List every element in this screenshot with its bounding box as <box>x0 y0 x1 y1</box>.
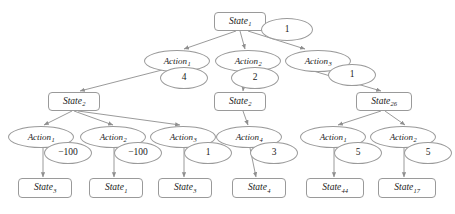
node-label: Action <box>320 133 344 142</box>
value-node-v_a2: 2 <box>231 67 279 89</box>
value-node-v_b6: 5 <box>404 142 452 164</box>
node-label: 2 <box>253 73 258 83</box>
node-label: −100 <box>58 148 78 158</box>
node-label: −100 <box>128 148 148 158</box>
node-subscript: 2 <box>413 136 416 143</box>
node-subscript: 4 <box>259 136 262 143</box>
state-node-t3: State3 <box>158 178 212 198</box>
node-label: State <box>248 183 267 193</box>
value-node-v_b1: −100 <box>44 142 92 164</box>
node-label: State <box>229 97 248 107</box>
state-node-t6: State17 <box>378 178 436 198</box>
state-node-t5: State44 <box>306 178 364 198</box>
state-node-s_m: State2 <box>214 92 266 111</box>
node-label: 5 <box>426 148 431 158</box>
node-label: State <box>394 183 413 193</box>
node-subscript: 2 <box>258 60 261 67</box>
node-label: State <box>63 97 82 107</box>
value-node-v_a3: 1 <box>328 64 376 86</box>
node-subscript: 4 <box>267 187 270 194</box>
node-label: 4 <box>182 73 187 83</box>
node-subscript: 2 <box>123 136 126 143</box>
node-label: Action <box>164 57 188 66</box>
node-subscript: 2 <box>82 100 85 107</box>
node-label: State <box>322 183 341 193</box>
node-subscript: 1 <box>343 136 346 143</box>
node-subscript: 2 <box>248 100 251 107</box>
node-label: State <box>371 97 390 107</box>
node-subscript: 3 <box>193 136 196 143</box>
state-node-t4: State4 <box>232 178 286 198</box>
value-node-v_b5: 5 <box>334 142 382 164</box>
node-label: State <box>34 183 53 193</box>
value-node-v_b2: −100 <box>114 142 162 164</box>
node-subscript: 1 <box>124 187 127 194</box>
edge-s_root-to-a1 <box>184 31 236 49</box>
node-label: 1 <box>206 148 211 158</box>
state-node-s_l: State2 <box>48 92 100 111</box>
node-label: 3 <box>272 148 277 158</box>
node-label: 1 <box>350 70 355 80</box>
edge-a1-to-s_l <box>80 70 162 91</box>
node-subscript: 44 <box>342 187 349 194</box>
value-node-v_root: 1 <box>261 18 313 41</box>
node-subscript: 3 <box>328 60 331 67</box>
node-label: State <box>174 183 193 193</box>
node-label: 1 <box>285 25 290 35</box>
value-node-v_a1: 4 <box>160 67 208 89</box>
node-subscript: 26 <box>391 100 398 107</box>
node-subscript: 17 <box>414 187 421 194</box>
state-node-t2: State1 <box>89 178 143 198</box>
state-node-s_root: State1 <box>214 12 266 31</box>
value-node-v_b4: 3 <box>250 142 298 164</box>
node-label: Action <box>28 133 52 142</box>
node-label: 5 <box>356 148 361 158</box>
node-label: Action <box>170 133 194 142</box>
node-label: Action <box>235 57 259 66</box>
value-node-v_b3: 1 <box>184 142 232 164</box>
node-subscript: 1 <box>51 136 54 143</box>
node-subscript: 3 <box>53 187 56 194</box>
edge-s_m-to-b4 <box>243 111 248 125</box>
state-node-t1: State3 <box>18 178 72 198</box>
edge-s_r-to-b6 <box>385 111 405 125</box>
node-label: State <box>229 17 248 27</box>
node-label: Action <box>100 133 124 142</box>
node-label: Action <box>390 133 414 142</box>
node-label: Action <box>305 57 329 66</box>
node-subscript: 1 <box>187 60 190 67</box>
state-node-s_r: State26 <box>356 92 412 111</box>
node-label: Action <box>236 133 260 142</box>
edge-s_l-to-b1 <box>44 111 72 125</box>
node-label: State <box>105 183 124 193</box>
search-tree-diagram: State11Action14Action22Action31State2Sta… <box>0 0 455 214</box>
node-subscript: 1 <box>248 20 251 27</box>
edge-s_root-to-a2 <box>240 31 245 49</box>
node-subscript: 3 <box>193 187 196 194</box>
edge-s_r-to-b5 <box>338 111 381 125</box>
